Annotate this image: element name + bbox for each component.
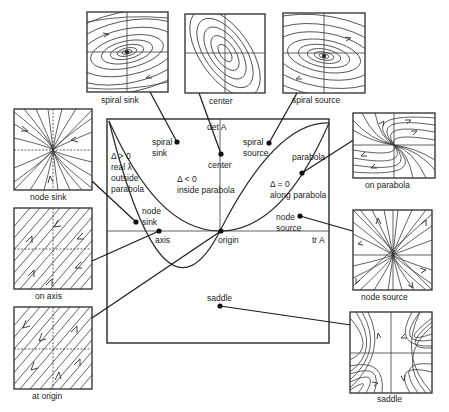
region-along-line-2: along parabola: [270, 190, 327, 200]
region-outside-line-1: Δ > 0: [111, 151, 131, 161]
point-label-spiral-sink-1: spiral: [152, 137, 172, 147]
leader-spiral-sink: [150, 92, 177, 142]
caption-node-source: node source: [361, 292, 408, 302]
point-label-spiral-source-1: spiral: [243, 137, 263, 147]
dot-axis: [156, 228, 161, 233]
point-label-axis: axis: [155, 235, 170, 245]
trace-determinant-plane: det A tr A Δ > 0 real λ outside parabola…: [107, 119, 329, 343]
caption-at-origin: at origin: [32, 391, 63, 401]
portrait-on-axis: on axis: [0, 208, 150, 301]
point-label-parabola: parabola: [292, 152, 325, 162]
caption-spiral-sink: spiral sink: [101, 95, 140, 105]
portrait-on-parabola: on parabola: [353, 113, 435, 190]
portrait-center: center: [176, 0, 274, 108]
point-label-origin: origin: [218, 235, 239, 245]
region-outside-line-2: real λ: [111, 162, 133, 172]
dot-center: [218, 151, 223, 156]
trace-axis-label: tr A: [312, 235, 325, 245]
caption-saddle: saddle: [377, 394, 402, 404]
leader-node-source: [300, 216, 356, 232]
dot-saddle: [217, 303, 222, 308]
caption-on-parabola: on parabola: [365, 180, 410, 190]
point-label-node-source-2: source: [276, 223, 302, 233]
dot-spiral-sink: [174, 139, 179, 144]
point-label-saddle: saddle: [207, 293, 232, 303]
point-label-spiral-sink-2: sink: [152, 148, 168, 158]
trace-determinant-diagram: det A tr A Δ > 0 real λ outside parabola…: [0, 0, 449, 412]
dot-node-source: [297, 213, 302, 218]
dot-parabola: [299, 170, 304, 175]
point-label-node-sink-1: node: [142, 206, 161, 216]
point-label-center: center: [208, 160, 232, 170]
region-inside-line-1: Δ < 0: [177, 174, 197, 184]
region-outside-line-4: parabola: [111, 184, 144, 194]
dot-origin: [218, 228, 223, 233]
leader-saddle: [220, 306, 351, 325]
region-outside-line-3: outside: [111, 173, 139, 183]
caption-center: center: [209, 96, 233, 106]
portrait-node-sink: node sink: [14, 109, 92, 202]
caption-on-axis: on axis: [35, 291, 62, 301]
dot-spiral-source: [266, 140, 271, 145]
portrait-node-source: node source: [353, 210, 432, 302]
dot-node-sink: [133, 219, 138, 224]
region-inside-line-2: inside parabola: [177, 185, 235, 195]
point-label-node-source-1: node: [276, 212, 295, 222]
leader-axis: [92, 231, 159, 261]
point-label-node-sink-2: sink: [142, 217, 158, 227]
portrait-at-origin: at origin: [0, 307, 150, 401]
caption-spiral-source: spiral source: [292, 95, 340, 105]
caption-node-sink: node sink: [30, 192, 67, 202]
region-along-line-1: Δ = 0: [270, 179, 290, 189]
portrait-saddle: saddle: [350, 312, 432, 404]
point-label-spiral-source-2: source: [243, 148, 269, 158]
